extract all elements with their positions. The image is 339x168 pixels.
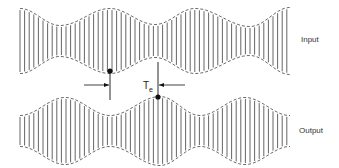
input-peak-marker	[107, 68, 112, 73]
envelope-delay-diagram	[0, 0, 339, 168]
envelope-bottom	[20, 147, 290, 166]
output-waveform	[20, 97, 290, 166]
envelope-top	[20, 97, 290, 116]
right-arrow-icon	[104, 83, 109, 87]
output-label: Output	[299, 126, 323, 135]
input-label: Input	[301, 35, 319, 44]
delay-markers	[84, 62, 185, 100]
envelope-delay-label: Te	[143, 80, 153, 93]
output-peak-marker	[155, 94, 160, 99]
input-waveform	[20, 8, 290, 75]
envelope-bottom	[20, 56, 290, 75]
delay-subscript: e	[149, 86, 153, 93]
envelope-top	[20, 8, 290, 27]
left-arrow-icon	[159, 83, 164, 87]
